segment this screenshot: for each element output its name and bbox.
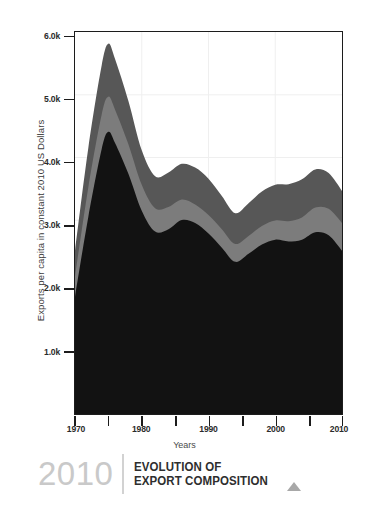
y-tick-label: 6.0k (28, 31, 60, 41)
y-tick-mark (64, 99, 74, 101)
x-tick-mark-minor (309, 416, 311, 426)
chart-page: Exports per capita in constant 2010 US D… (0, 0, 369, 508)
y-tick-mark (64, 162, 74, 164)
x-tick-label: 2000 (267, 424, 285, 434)
y-tick-label: 2.0k (28, 283, 60, 293)
y-tick-mark (64, 36, 74, 38)
stacked-area-svg (75, 32, 342, 414)
footer-banner: 2010 EVOLUTION OF EXPORT COMPOSITION (38, 454, 301, 494)
footer-title-line-1: EVOLUTION OF (134, 460, 268, 475)
footer-divider (122, 454, 123, 494)
x-tick-label: 2010 (330, 424, 348, 434)
chart-figure: Exports per capita in constant 2010 US D… (0, 0, 369, 460)
footer-title-block: EVOLUTION OF EXPORT COMPOSITION (134, 454, 280, 494)
x-tick-label: 1990 (199, 424, 217, 434)
x-tick-mark-minor (242, 416, 244, 426)
x-tick-label: 1980 (132, 424, 150, 434)
y-tick-label: 3.0k (28, 220, 60, 230)
footer-title-line-2: EXPORT COMPOSITION (134, 474, 268, 489)
footer-year: 2010 (38, 454, 122, 494)
y-tick-mark (64, 288, 74, 290)
y-tick-mark (64, 225, 74, 227)
x-tick-label: 1970 (67, 424, 85, 434)
y-tick-mark (64, 351, 74, 353)
x-tick-mark-minor (175, 416, 177, 426)
y-tick-label: 4.0k (28, 157, 60, 167)
x-tick-mark-minor (108, 416, 110, 426)
triangle-icon (287, 482, 301, 491)
y-tick-label: 1.0k (28, 347, 60, 357)
y-tick-label: 5.0k (28, 94, 60, 104)
x-axis-title: Years (0, 440, 369, 450)
plot-area (74, 31, 343, 415)
